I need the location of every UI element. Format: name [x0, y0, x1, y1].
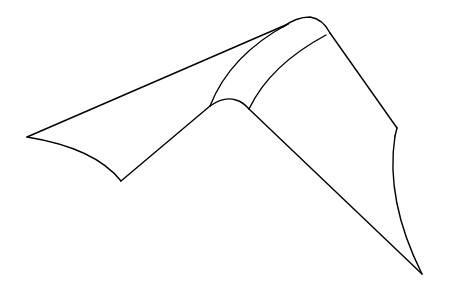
left-trailing-curve	[27, 137, 121, 181]
left-inner-edge	[121, 106, 210, 181]
left-leading-edge	[27, 24, 288, 137]
right-trailing-curve	[393, 136, 422, 274]
fold-right-curve	[249, 35, 326, 109]
inner-fold-arch	[210, 99, 249, 109]
right-leading-edge	[330, 33, 397, 128]
wing-drawing	[0, 0, 449, 289]
top-fold-arch	[283, 17, 330, 33]
fold-left-curve	[210, 24, 288, 106]
right-notch	[395, 128, 397, 136]
